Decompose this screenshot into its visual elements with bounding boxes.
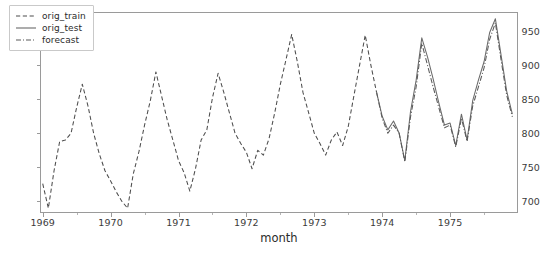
x-axis-minor-tick bbox=[416, 213, 417, 215]
x-axis-tick-mark bbox=[111, 213, 112, 217]
x-axis-tick-label: 1975 bbox=[438, 217, 463, 228]
x-axis-tick-mark bbox=[450, 213, 451, 217]
x-axis-tick-label: 1969 bbox=[30, 217, 55, 228]
plot-area bbox=[40, 12, 518, 213]
legend-label-orig-test: orig_test bbox=[42, 23, 82, 33]
x-axis-tick-mark bbox=[314, 213, 315, 217]
legend-item-orig-train: orig_train bbox=[15, 10, 86, 22]
series-canvas bbox=[40, 12, 518, 213]
series-line-orig-test bbox=[377, 19, 513, 161]
x-axis-tick-mark bbox=[246, 213, 247, 217]
legend-swatch-solid-icon bbox=[15, 23, 37, 33]
x-axis-title: month bbox=[260, 231, 297, 245]
x-axis-tick-mark bbox=[179, 213, 180, 217]
x-axis-tick-mark bbox=[43, 213, 44, 217]
chart-figure: 700750800850900950 196919701971197219731… bbox=[0, 0, 540, 254]
x-axis-tick-label: 1972 bbox=[234, 217, 259, 228]
series-group bbox=[43, 19, 513, 208]
x-axis-minor-tick bbox=[212, 213, 213, 215]
x-axis-minor-tick bbox=[77, 213, 78, 215]
x-axis-minor-tick bbox=[280, 213, 281, 215]
legend-item-orig-test: orig_test bbox=[15, 22, 86, 34]
legend-item-forecast: forecast bbox=[15, 34, 86, 46]
x-axis-tick-label: 1973 bbox=[302, 217, 327, 228]
legend-swatch-dashdot-icon bbox=[15, 35, 37, 45]
x-axis-tick-label: 1970 bbox=[98, 217, 123, 228]
x-axis-tick-mark bbox=[382, 213, 383, 217]
series-line-orig-train bbox=[43, 34, 377, 208]
x-axis-tick-label: 1971 bbox=[166, 217, 191, 228]
chart-legend: orig_train orig_test forecast bbox=[9, 5, 94, 51]
series-line-forecast bbox=[377, 23, 513, 162]
legend-label-forecast: forecast bbox=[42, 35, 79, 45]
legend-swatch-dashed-icon bbox=[15, 11, 37, 21]
x-axis-tick-label: 1974 bbox=[370, 217, 395, 228]
x-axis-minor-tick bbox=[348, 213, 349, 215]
legend-label-orig-train: orig_train bbox=[42, 11, 86, 21]
x-axis-minor-tick bbox=[145, 213, 146, 215]
x-axis-minor-tick bbox=[484, 213, 485, 215]
